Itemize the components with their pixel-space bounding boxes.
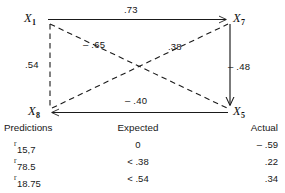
path-diagram-figure: X1 X7 X8 X5 .73 – .48 – .40 .54 – .65 .3… [0,0,285,193]
table-row: r15,7 0 – .59 [0,138,285,155]
edge-label-x1-x8: .54 [25,60,39,70]
edge-label-x5-x8: – .40 [125,96,147,106]
prediction-stat-2: r78.5 [14,155,35,171]
node-x8-label: X [28,104,36,118]
node-x1: X1 [24,12,36,25]
table-row: r78.5 < .38 .22 [0,155,285,172]
actual-value: .34 [196,172,278,185]
results-table: Predictions Expected Actual r15,7 0 – .5… [0,121,285,189]
expected-value: < .54 [95,172,181,185]
node-x1-subscript: 1 [32,18,36,27]
column-header-expected: Expected [95,121,181,134]
edge-label-x7-x5: – .48 [228,62,250,72]
edge-label-x1-x7: .73 [124,5,138,15]
node-x1-label: X [24,11,32,25]
node-x7: X7 [233,12,245,25]
column-header-predictions: Predictions [4,121,52,134]
edge-label-x1-x5: – .65 [83,40,105,50]
node-x7-label: X [233,11,241,25]
prediction-stat-3: r18.75 [14,172,40,188]
table-header-row: Predictions Expected Actual [0,121,285,138]
column-header-actual: Actual [196,121,278,134]
node-x7-subscript: 7 [241,18,245,27]
r-subscript: 15,7 [17,144,36,155]
r-subscript: 18.75 [17,178,41,189]
actual-value: .22 [196,155,278,168]
actual-value: – .59 [196,138,278,151]
r-subscript: 78.5 [17,161,36,172]
node-x5: X5 [233,105,245,118]
node-x5-label: X [233,104,241,118]
expected-value: < .38 [95,155,181,168]
prediction-stat-1: r15,7 [14,138,35,154]
table-row: r18.75 < .54 .34 [0,172,285,189]
node-x5-subscript: 5 [241,111,245,120]
edge-label-x8-x7: .38 [168,42,182,52]
node-x8: X8 [28,105,40,118]
expected-value: 0 [95,138,181,151]
node-x8-subscript: 8 [36,111,40,120]
